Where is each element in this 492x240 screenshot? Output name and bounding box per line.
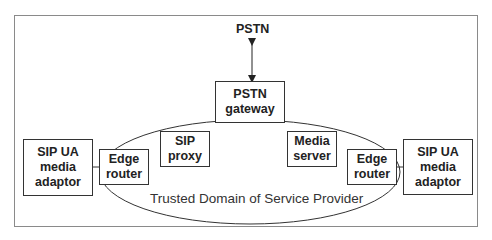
media-server-node: Media server — [287, 131, 337, 167]
trusted-domain-label: Trusted Domain of Service Provider — [150, 191, 363, 206]
edge-router-left-node: Edge router — [99, 149, 149, 185]
sip-ua-right-node: SIP UA media adaptor — [403, 139, 473, 195]
pstn-gateway-node: PSTN gateway — [215, 81, 285, 123]
edge-router-right-node: Edge router — [347, 149, 397, 185]
sip-proxy-node: SIP proxy — [160, 131, 210, 167]
pstn-label: PSTN — [236, 22, 269, 36]
sip-ua-left-node: SIP UA media adaptor — [23, 139, 93, 196]
